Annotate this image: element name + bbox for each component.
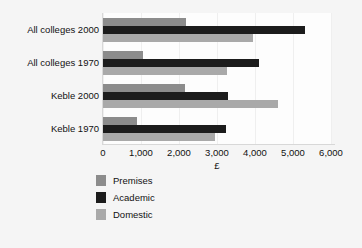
bar-chart: All colleges 2000All colleges 1970Keble …	[0, 0, 362, 248]
x-tick-label: 4,000	[243, 147, 267, 158]
x-axis-line	[103, 144, 335, 145]
bar-group	[103, 13, 331, 46]
category-label: All colleges 2000	[3, 24, 99, 35]
bar-premises[interactable]	[103, 84, 185, 92]
gridline	[331, 13, 332, 145]
bar-premises[interactable]	[103, 51, 143, 59]
x-tick-label: 2,000	[167, 147, 191, 158]
legend-label: Premises	[113, 175, 153, 186]
chart-legend: PremisesAcademicDomestic	[96, 172, 155, 223]
x-axis-tick-labels: 01,0002,0003,0004,0005,0006,000	[0, 147, 362, 161]
category-axis-labels: All colleges 2000All colleges 1970Keble …	[0, 13, 99, 145]
x-axis-title: £	[103, 160, 331, 171]
bar-group	[103, 46, 331, 79]
legend-label: Academic	[113, 192, 155, 203]
bar-premises[interactable]	[103, 117, 137, 125]
category-label: Keble 1970	[3, 123, 99, 134]
bar-group	[103, 79, 331, 112]
legend-item[interactable]: Domestic	[96, 206, 155, 223]
x-tick-label: 1,000	[129, 147, 153, 158]
legend-item[interactable]: Academic	[96, 189, 155, 206]
x-tick-label: 0	[100, 147, 105, 158]
bar-domestic[interactable]	[103, 67, 227, 75]
bar-group	[103, 112, 331, 145]
legend-swatch-domestic	[96, 209, 106, 220]
x-tick-label: 6,000	[319, 147, 343, 158]
bar-domestic[interactable]	[103, 133, 215, 141]
legend-item[interactable]: Premises	[96, 172, 155, 189]
bar-domestic[interactable]	[103, 100, 278, 108]
plot-area	[103, 13, 331, 145]
bar-academic[interactable]	[103, 59, 259, 67]
bar-academic[interactable]	[103, 26, 305, 34]
category-label: Keble 2000	[3, 90, 99, 101]
category-label: All colleges 1970	[3, 57, 99, 68]
x-tick-label: 3,000	[205, 147, 229, 158]
bar-domestic[interactable]	[103, 34, 253, 42]
bar-premises[interactable]	[103, 18, 186, 26]
bar-academic[interactable]	[103, 125, 226, 133]
x-tick-label: 5,000	[281, 147, 305, 158]
legend-swatch-premises	[96, 175, 106, 186]
legend-label: Domestic	[113, 209, 153, 220]
y-axis-line	[102, 13, 103, 145]
legend-swatch-academic	[96, 192, 106, 203]
bar-academic[interactable]	[103, 92, 228, 100]
